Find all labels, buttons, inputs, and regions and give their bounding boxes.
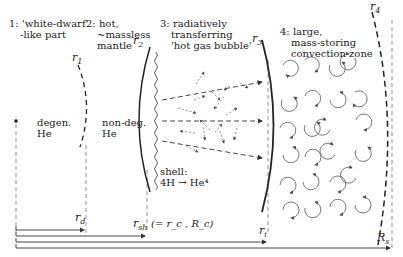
label-text: He: [102, 128, 117, 139]
zone-text: 'hot gas bubble': [160, 40, 252, 51]
radius-rd-label: rd: [75, 212, 85, 227]
radius-subscript: 4: [375, 6, 380, 15]
radius-rsh-label: rsh (= r_c , R_c): [133, 218, 213, 233]
radius-ri-label: ri: [259, 225, 267, 240]
radius-r2-label: r2: [133, 35, 143, 50]
label-text: degen.: [37, 117, 71, 128]
radius-r3-label: r3: [252, 33, 262, 48]
radius-Rs-label: Rs: [377, 232, 389, 247]
zone-number: 4:: [280, 26, 290, 37]
stellar-structure-diagram: 1: 'white-dwarf' -like part 2: hot, ~mas…: [0, 0, 403, 257]
zone-text: convection zone: [280, 48, 373, 59]
radius-subscript: 1: [77, 57, 82, 66]
zone-text: -like part: [9, 29, 66, 40]
boundary-r1: [78, 65, 87, 147]
radius-subscript: d: [80, 217, 85, 226]
center-point: [14, 119, 18, 123]
degenerate-he-label: degen. He: [37, 117, 71, 139]
radius-r1-label: r1: [72, 52, 82, 67]
radius-subscript: sh: [138, 223, 147, 232]
nondegenerate-he-label: non-deg. He: [102, 117, 146, 139]
zone-number: 3:: [160, 18, 170, 29]
convection-eddies: [280, 54, 372, 218]
label-text: shell:: [160, 166, 187, 177]
zone-4-label: 4: large, mass-storing convection zone: [280, 26, 373, 59]
radius-subscript: 3: [257, 38, 262, 47]
zone-text: mass-storing: [280, 37, 356, 48]
zone-number: 1:: [9, 18, 19, 29]
scattered-photons: [178, 72, 248, 152]
zone-number: 2:: [86, 18, 96, 29]
label-text: 4H → He⁴: [160, 177, 208, 188]
radius-subscript: i: [264, 230, 267, 239]
radius-note: (= r_c , R_c): [151, 218, 213, 229]
zone-3-label: 3: radiatively transferring 'hot gas bub…: [160, 18, 252, 51]
zone-text: radiatively: [173, 18, 227, 29]
radius-subscript: s: [385, 237, 389, 246]
zone-text: hot,: [99, 18, 119, 29]
zone-text: 'white-dwarf': [22, 18, 88, 29]
radius-r4-label: r4: [370, 1, 380, 16]
shell-label: shell: 4H → He⁴: [160, 166, 208, 188]
label-text: non-deg.: [102, 117, 146, 128]
boundary-r4: [372, 12, 388, 245]
burning-shell: [155, 52, 158, 190]
zone-1-label: 1: 'white-dwarf' -like part: [9, 18, 88, 40]
zone-text: transferring: [160, 29, 233, 40]
zone-text: large,: [293, 26, 322, 37]
label-text: He: [37, 128, 52, 139]
zone-text: mantle: [86, 40, 132, 51]
radiation-rays: [162, 82, 262, 158]
radius-subscript: 2: [138, 40, 143, 49]
